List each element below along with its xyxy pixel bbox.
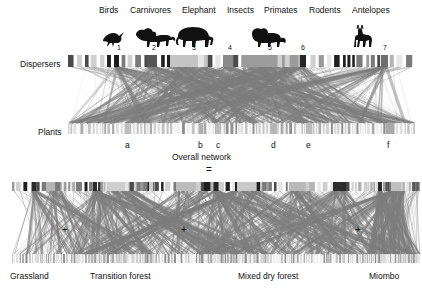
plant-label-d: d bbox=[271, 141, 276, 150]
group-label-birds: Birds bbox=[99, 6, 118, 15]
plant-group-labels: a b c d e f bbox=[0, 141, 422, 152]
group-label-antelopes: Antelopes bbox=[352, 6, 390, 15]
plant-label-c: c bbox=[216, 141, 220, 150]
subnetwork-label-grassland: Grassland bbox=[10, 272, 49, 281]
overall-network-caption: Overall network bbox=[172, 153, 231, 162]
plant-label-a: a bbox=[125, 141, 130, 150]
disperser-number-1: 1 bbox=[117, 44, 121, 51]
disperser-group-labels: Birds Carnivores Elephant Insects Primat… bbox=[0, 6, 422, 18]
subnetwork-labels: Grassland Transition forest Mixed dry fo… bbox=[0, 272, 422, 284]
subnetwork-label-miombo: Miombo bbox=[369, 272, 399, 281]
subnetwork-label-mixed-dry-forest: Mixed dry forest bbox=[238, 272, 298, 281]
group-label-carnivores: Carnivores bbox=[130, 6, 171, 15]
disperser-number-7: 7 bbox=[383, 44, 387, 51]
disperser-number-5: 5 bbox=[268, 44, 272, 51]
subnetwork-label-transition-forest: Transition forest bbox=[90, 272, 151, 281]
overall-network bbox=[0, 52, 422, 142]
plant-label-b: b bbox=[198, 141, 203, 150]
plus-sign-3: + bbox=[355, 225, 361, 235]
equals-sign: = bbox=[206, 165, 212, 175]
plus-sign-1: + bbox=[62, 225, 68, 235]
plus-sign-2: + bbox=[181, 225, 187, 235]
plant-label-e: e bbox=[306, 141, 311, 150]
group-label-primates: Primates bbox=[264, 6, 298, 15]
disperser-number-2: 2 bbox=[152, 44, 156, 51]
group-label-elephant: Elephant bbox=[182, 6, 216, 15]
disperser-number-3: 3 bbox=[192, 44, 196, 51]
plant-label-f: f bbox=[387, 141, 389, 150]
disperser-number-4: 4 bbox=[228, 44, 232, 51]
disperser-number-6: 6 bbox=[301, 44, 305, 51]
group-label-rodents: Rodents bbox=[309, 6, 341, 15]
group-label-insects: Insects bbox=[227, 6, 254, 15]
